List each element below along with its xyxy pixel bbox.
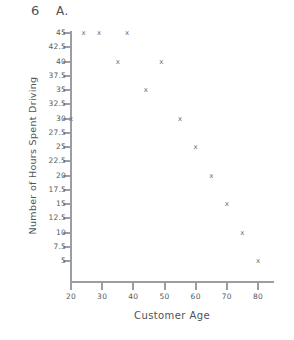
y-tick-label: 32.5 xyxy=(49,99,67,108)
data-point: x xyxy=(240,229,244,236)
y-tick-label: 45 xyxy=(56,28,66,37)
y-axis-label: Number of Hours Spent Driving xyxy=(27,51,38,261)
data-point: x xyxy=(116,58,120,65)
x-tick-label: 50 xyxy=(153,292,177,301)
data-point: x xyxy=(81,30,85,37)
y-axis-line xyxy=(70,31,72,283)
y-tick-label: 30 xyxy=(56,114,66,123)
x-tick-label: 80 xyxy=(246,292,270,301)
x-tick-label: 40 xyxy=(121,292,145,301)
data-point: x xyxy=(144,87,148,94)
data-point: x xyxy=(178,115,182,122)
plot-area: 57.51012.51517.52022.52527.53032.53537.5… xyxy=(0,0,294,340)
y-tick-label: 7.5 xyxy=(53,242,66,251)
scatter-plot-figure: 6 A. 57.51012.51517.52022.52527.53032.53… xyxy=(0,0,294,340)
y-tick-label: 12.5 xyxy=(49,213,67,222)
x-tick xyxy=(132,283,134,290)
y-tick-label: 40 xyxy=(56,57,66,66)
y-tick-label: 27.5 xyxy=(49,128,67,137)
y-tick-label: 22.5 xyxy=(49,156,67,165)
y-tick-label: 10 xyxy=(56,228,66,237)
y-tick-label: 42.5 xyxy=(49,42,67,51)
y-tick-label: 25 xyxy=(56,142,66,151)
data-point: x xyxy=(69,115,73,122)
x-tick xyxy=(70,283,72,290)
x-tick-label: 20 xyxy=(59,292,83,301)
x-tick-label: 60 xyxy=(184,292,208,301)
y-tick-label: 15 xyxy=(56,199,66,208)
y-tick-label: 5 xyxy=(61,256,66,265)
y-tick-label: 20 xyxy=(56,171,66,180)
data-point: x xyxy=(97,30,101,37)
data-point: x xyxy=(225,201,229,208)
x-tick-label: 30 xyxy=(90,292,114,301)
data-point: x xyxy=(125,30,129,37)
x-tick-label: 70 xyxy=(215,292,239,301)
data-point: x xyxy=(209,172,213,179)
x-tick xyxy=(195,283,197,290)
y-tick-label: 35 xyxy=(56,85,66,94)
x-tick xyxy=(164,283,166,290)
x-tick xyxy=(101,283,103,290)
y-tick-label: 37.5 xyxy=(49,71,67,80)
data-point: x xyxy=(159,58,163,65)
data-point: x xyxy=(194,144,198,151)
y-tick-label: 17.5 xyxy=(49,185,67,194)
x-tick xyxy=(257,283,259,290)
x-tick xyxy=(226,283,228,290)
x-axis-label: Customer Age xyxy=(70,310,274,321)
data-point: x xyxy=(256,258,260,265)
